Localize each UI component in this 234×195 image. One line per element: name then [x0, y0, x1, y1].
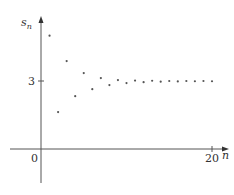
data-point — [100, 77, 102, 79]
sequence-plot: sn n 0 20 3 — [0, 0, 234, 195]
data-point — [185, 80, 187, 82]
data-point — [143, 81, 145, 83]
data-point — [125, 82, 127, 84]
data-point — [211, 80, 213, 82]
data-point — [48, 35, 50, 37]
data-point — [57, 111, 59, 113]
y-axis-label: sn — [21, 16, 32, 31]
x-tick-label-20: 20 — [205, 152, 219, 165]
data-point — [66, 60, 68, 62]
x-tick-label-0: 0 — [31, 152, 38, 165]
axes — [10, 16, 229, 183]
data-point — [168, 80, 170, 82]
x-axis-label: n — [222, 149, 229, 162]
data-point — [160, 81, 162, 83]
data-point — [74, 95, 76, 97]
y-tick-label-3: 3 — [28, 75, 35, 88]
data-point — [202, 80, 204, 82]
axis-labels: sn n 0 20 3 — [21, 16, 229, 165]
y-axis-arrow-icon — [39, 16, 44, 23]
data-point — [194, 80, 196, 82]
data-points — [48, 35, 213, 114]
data-point — [177, 80, 179, 82]
data-point — [108, 84, 110, 86]
data-point — [83, 72, 85, 74]
data-point — [117, 79, 119, 81]
data-point — [91, 88, 93, 90]
data-point — [151, 80, 153, 82]
data-point — [134, 79, 136, 81]
